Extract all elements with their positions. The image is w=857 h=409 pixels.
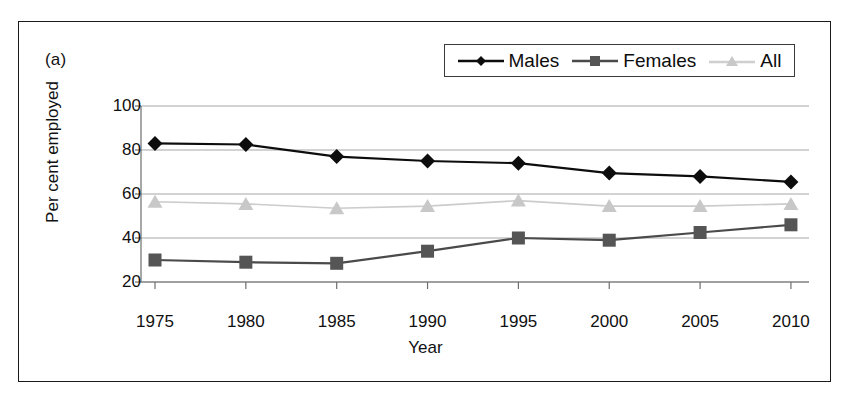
data-point (603, 234, 616, 247)
x-tick-label: 1985 (318, 312, 356, 332)
data-point (602, 166, 617, 181)
data-point (148, 136, 163, 151)
series-males (148, 136, 799, 190)
x-tick-label: 2000 (590, 312, 628, 332)
plot-wrap: Per cent employed Year 20406080100 19751… (19, 22, 832, 383)
data-point (239, 256, 252, 269)
x-tick-label: 1975 (136, 312, 174, 332)
y-tick-label: 60 (101, 184, 141, 204)
y-tick-label: 80 (101, 140, 141, 160)
data-point (149, 254, 162, 267)
data-point (511, 194, 526, 207)
data-point (783, 174, 798, 189)
data-point (512, 232, 525, 245)
y-tick-label: 20 (101, 272, 141, 292)
data-point (511, 156, 526, 171)
data-point (694, 226, 707, 239)
y-tick-labels: 20406080100 (97, 22, 141, 383)
x-tick-label: 2005 (681, 312, 719, 332)
figure-panel: (a) Males Females (18, 21, 831, 382)
data-point (329, 149, 344, 164)
series-all (148, 194, 799, 215)
y-axis-title: Per cent employed (43, 42, 63, 262)
x-tick-label: 1990 (409, 312, 447, 332)
data-point (420, 154, 435, 169)
data-point (784, 218, 797, 231)
data-point (421, 245, 434, 258)
series-females (149, 218, 798, 269)
y-tick-label: 100 (101, 96, 141, 116)
x-tick-label: 2010 (772, 312, 810, 332)
data-point (330, 257, 343, 270)
data-point (693, 169, 708, 184)
x-tick-label: 1980 (227, 312, 265, 332)
y-tick-label: 40 (101, 228, 141, 248)
x-tick-label: 1995 (499, 312, 537, 332)
